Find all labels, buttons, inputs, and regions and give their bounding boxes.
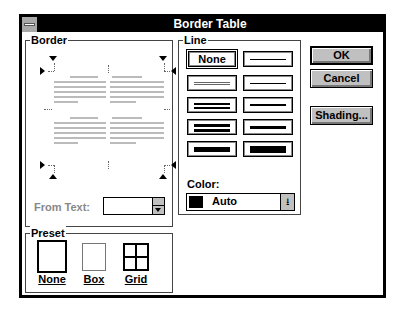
spin-up-icon[interactable] [153, 198, 164, 206]
spin-down-icon[interactable] [153, 206, 164, 213]
line-style-single-1[interactable] [243, 75, 293, 91]
preset-none[interactable]: None [36, 240, 68, 285]
line-style-double-1[interactable] [187, 97, 237, 113]
border-group-label: Border [30, 33, 68, 47]
title-bar: Border Table [22, 17, 383, 32]
preset-none-icon [37, 240, 67, 273]
line-group: Line None Color: Auto ⭳ [178, 40, 301, 215]
line-style-thick-1[interactable] [187, 141, 237, 157]
ok-button[interactable]: OK [310, 46, 373, 65]
color-value: Auto [212, 195, 237, 207]
line-style-double-2[interactable] [187, 119, 237, 135]
line-style-hairline[interactable] [243, 51, 293, 67]
line-style-single-2[interactable] [243, 97, 293, 113]
top-right-marker-icon [159, 56, 167, 61]
preset-grid[interactable]: Grid [120, 240, 152, 285]
line-style-thick-2[interactable] [243, 141, 293, 157]
top-left-marker-icon [49, 56, 57, 61]
right-bottom-marker-icon [171, 161, 176, 169]
preset-box[interactable]: Box [78, 240, 110, 285]
left-top-marker-icon [40, 67, 45, 75]
line-style-double-thin[interactable] [187, 75, 237, 91]
window-title: Border Table [37, 17, 383, 32]
line-group-label: Line [183, 33, 208, 47]
shading-button[interactable]: Shading... [310, 106, 373, 125]
bottom-right-marker-icon [159, 174, 167, 179]
preset-group: Preset None Box Grid [25, 233, 173, 293]
color-swatch [189, 196, 203, 208]
border-preview[interactable] [54, 61, 162, 187]
preset-box-icon [82, 243, 106, 271]
bottom-left-marker-icon [49, 174, 57, 179]
border-table-dialog: Border Table Border [19, 14, 386, 298]
preset-grid-icon [123, 243, 149, 271]
line-style-none[interactable]: None [186, 49, 238, 69]
left-bottom-marker-icon [40, 161, 45, 169]
right-top-marker-icon [171, 67, 176, 75]
spin-buttons[interactable] [152, 198, 164, 214]
system-menu-icon[interactable] [22, 17, 37, 32]
preset-group-label: Preset [30, 226, 66, 240]
color-label: Color: [187, 178, 219, 190]
color-dropdown[interactable]: Auto ⭳ [186, 193, 295, 211]
border-group: Border [25, 40, 173, 227]
from-text-label: From Text: [34, 201, 90, 213]
line-style-single-3[interactable] [243, 119, 293, 135]
from-text-spinbox[interactable] [103, 197, 165, 215]
dropdown-arrow-icon[interactable]: ⭳ [280, 194, 294, 210]
cancel-button[interactable]: Cancel [310, 69, 373, 88]
